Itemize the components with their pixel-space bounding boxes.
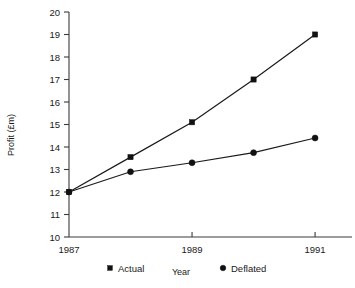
data-point-marker bbox=[251, 77, 256, 82]
y-tick-label: 16 bbox=[49, 97, 60, 108]
legend-label: Deflated bbox=[231, 263, 266, 274]
y-axis-title: Profit (£m) bbox=[6, 114, 16, 156]
legend-circle-icon bbox=[220, 265, 226, 271]
data-point-marker bbox=[189, 120, 194, 125]
y-axis: 1011121314151617181920 Profit (£m) bbox=[6, 7, 69, 243]
series-line-actual bbox=[69, 35, 315, 193]
x-tick-label: 1987 bbox=[58, 244, 79, 255]
legend-label: Actual bbox=[118, 263, 144, 274]
data-point-marker bbox=[128, 169, 134, 175]
data-point-marker bbox=[312, 135, 318, 141]
y-tick-label: 11 bbox=[50, 209, 60, 220]
y-tick-label-group: 1011121314151617181920 bbox=[49, 7, 60, 243]
chart-canvas: 1011121314151617181920 Profit (£m) 19871… bbox=[0, 0, 355, 288]
y-tick-label: 17 bbox=[49, 74, 60, 85]
x-tick-label-group: 198719891991 bbox=[58, 244, 325, 255]
y-tick-label: 12 bbox=[49, 187, 60, 198]
legend-square-icon bbox=[108, 266, 113, 271]
x-tick-label: 1991 bbox=[305, 244, 326, 255]
y-tick-label: 15 bbox=[49, 119, 60, 130]
x-axis-title: Year bbox=[172, 267, 190, 277]
y-tick-label: 13 bbox=[49, 164, 60, 175]
y-tick-label: 18 bbox=[49, 52, 60, 63]
y-tick-label: 14 bbox=[49, 142, 60, 153]
legend-item-actual[interactable]: Actual bbox=[108, 263, 145, 274]
legend-item-deflated[interactable]: Deflated bbox=[220, 263, 266, 274]
data-point-marker bbox=[189, 160, 195, 166]
y-tick-label: 19 bbox=[49, 29, 60, 40]
data-series-group bbox=[66, 32, 318, 195]
data-point-marker bbox=[66, 189, 72, 195]
x-tick-group bbox=[192, 232, 315, 237]
series-actual bbox=[66, 32, 317, 195]
x-axis: 198719891991 Year bbox=[58, 232, 352, 277]
data-point-marker bbox=[128, 155, 133, 160]
data-point-marker bbox=[251, 150, 257, 156]
y-tick-group bbox=[64, 12, 69, 237]
y-tick-label: 10 bbox=[49, 232, 60, 243]
series-deflated bbox=[66, 135, 318, 195]
y-tick-label: 20 bbox=[49, 7, 60, 18]
profit-line-chart: 1011121314151617181920 Profit (£m) 19871… bbox=[0, 0, 355, 288]
data-point-marker bbox=[312, 32, 317, 37]
x-tick-label: 1989 bbox=[181, 244, 202, 255]
